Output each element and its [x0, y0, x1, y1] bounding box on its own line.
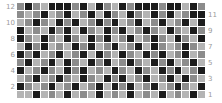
heatmap-cell — [175, 19, 183, 27]
heatmap-cell — [159, 51, 167, 59]
heatmap-cell — [25, 91, 33, 99]
heatmap-cell — [64, 35, 72, 43]
heatmap-cell — [175, 27, 183, 35]
heatmap-cell — [190, 67, 198, 75]
heatmap-cell — [175, 35, 183, 43]
heatmap-cell — [167, 11, 175, 19]
heatmap-cell — [88, 11, 96, 19]
heatmap-cell — [135, 11, 143, 19]
heatmap-cell — [151, 67, 159, 75]
heatmap-cell — [96, 27, 104, 35]
heatmap-cell — [96, 75, 104, 83]
heatmap-cell — [104, 35, 112, 43]
heatmap-cell — [96, 91, 104, 99]
heatmap-cell — [182, 75, 190, 83]
heatmap-cell — [41, 35, 49, 43]
heatmap-cell — [49, 11, 57, 19]
heatmap-cell — [167, 59, 175, 67]
heatmap-cell — [96, 11, 104, 19]
left-y-axis: 24681012 — [0, 3, 15, 99]
heatmap-cell — [80, 11, 88, 19]
left-axis-tick-4: 4 — [11, 68, 15, 75]
heatmap-cell — [72, 83, 80, 91]
heatmap-cell — [104, 11, 112, 19]
heatmap-cell — [17, 59, 25, 67]
heatmap-cell — [151, 83, 159, 91]
heatmap-cell — [88, 83, 96, 91]
heatmap-cell — [119, 27, 127, 35]
heatmap-cell — [119, 83, 127, 91]
heatmap-cell — [151, 11, 159, 19]
heatmap-cell — [143, 43, 151, 51]
heatmap-cell — [159, 75, 167, 83]
heatmap-cell — [151, 91, 159, 99]
heatmap-cell — [80, 75, 88, 83]
heatmap-cell — [49, 59, 57, 67]
heatmap-cell — [80, 67, 88, 75]
heatmap-cell — [80, 3, 88, 11]
right-y-axis: 1357911 — [208, 3, 222, 99]
heatmap-cell — [127, 43, 135, 51]
heatmap-cell — [135, 3, 143, 11]
heatmap-cell — [143, 35, 151, 43]
heatmap-cell — [49, 91, 57, 99]
left-axis-tick-10: 10 — [6, 20, 15, 27]
heatmap-cell — [25, 35, 33, 43]
heatmap-cell — [143, 19, 151, 27]
heatmap-cell — [182, 27, 190, 35]
heatmap-cell — [33, 19, 41, 27]
heatmap-cell — [25, 27, 33, 35]
heatmap-cell — [80, 35, 88, 43]
heatmap-cell — [88, 59, 96, 67]
heatmap-cell — [41, 75, 49, 83]
heatmap-cell — [167, 91, 175, 99]
heatmap-cell — [72, 35, 80, 43]
heatmap-cell — [88, 51, 96, 59]
heatmap-cell — [72, 3, 80, 11]
heatmap-cell — [167, 43, 175, 51]
heatmap-cell — [49, 35, 57, 43]
heatmap-cell — [198, 67, 206, 75]
heatmap-cell — [104, 91, 112, 99]
heatmap-cell — [17, 91, 25, 99]
heatmap-cell — [88, 35, 96, 43]
heatmap-cell — [175, 51, 183, 59]
heatmap-cell — [41, 67, 49, 75]
heatmap-cell — [25, 59, 33, 67]
heatmap-cell — [88, 19, 96, 27]
heatmap-cell — [190, 19, 198, 27]
right-axis-tick-1: 1 — [208, 92, 212, 99]
heatmap-cell — [64, 19, 72, 27]
heatmap-cell — [104, 43, 112, 51]
heatmap-cell — [198, 3, 206, 11]
heatmap-cell — [41, 19, 49, 27]
heatmap-cell — [80, 19, 88, 27]
heatmap-cell — [112, 27, 120, 35]
left-axis-tick-2: 2 — [11, 84, 15, 91]
heatmap-cell — [49, 3, 57, 11]
heatmap-cell — [17, 43, 25, 51]
heatmap-cell — [104, 75, 112, 83]
heatmap-cell — [104, 83, 112, 91]
heatmap-cell — [167, 27, 175, 35]
heatmap-cell — [198, 91, 206, 99]
heatmap-cell — [64, 3, 72, 11]
heatmap-cell — [159, 11, 167, 19]
heatmap-cell — [119, 43, 127, 51]
heatmap-cell — [127, 3, 135, 11]
heatmap-cell — [96, 3, 104, 11]
heatmap-cell — [88, 27, 96, 35]
heatmap-cell — [64, 43, 72, 51]
heatmap-cell — [96, 67, 104, 75]
heatmap-grid[interactable] — [17, 3, 206, 99]
heatmap-cell — [190, 59, 198, 67]
heatmap-cell — [41, 27, 49, 35]
heatmap-cell — [198, 19, 206, 27]
heatmap-cell — [112, 35, 120, 43]
heatmap-cell — [151, 35, 159, 43]
heatmap-cell — [41, 43, 49, 51]
heatmap-cell — [167, 67, 175, 75]
heatmap-cell — [64, 67, 72, 75]
heatmap-cell — [143, 91, 151, 99]
right-axis-tick-5: 5 — [208, 60, 212, 67]
